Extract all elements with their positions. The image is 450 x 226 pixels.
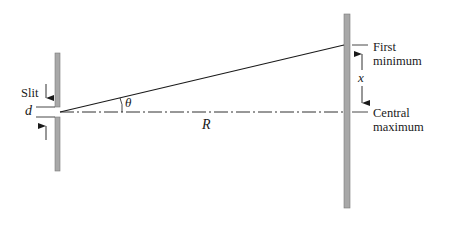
- central-maximum-line1: Central: [373, 106, 424, 120]
- ray-to-first-minimum: [60, 45, 344, 112]
- displacement-label: x: [358, 71, 364, 85]
- slit-width-label: d: [25, 104, 32, 118]
- distance-label: R: [202, 118, 211, 132]
- central-maximum-label: Central maximum: [373, 106, 424, 134]
- angle-label: θ: [125, 96, 131, 110]
- first-minimum-label: First minimum: [373, 40, 422, 68]
- central-maximum-line2: maximum: [373, 120, 424, 134]
- slit-label: Slit: [21, 86, 38, 100]
- screen: [344, 14, 350, 208]
- slit-barrier-lower: [55, 117, 60, 171]
- first-minimum-line2: minimum: [373, 54, 422, 68]
- first-minimum-line1: First: [373, 40, 422, 54]
- angle-arc: [120, 98, 122, 112]
- diffraction-diagram: Slit d θ R x First minimum Central maxim…: [0, 0, 450, 226]
- slit-barrier-upper: [55, 53, 60, 107]
